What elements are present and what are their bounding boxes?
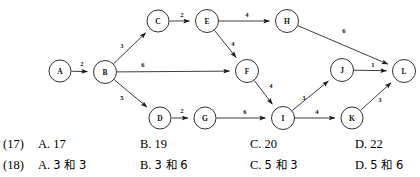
option-letter: B. <box>140 137 151 151</box>
option-c[interactable]: C. 20 <box>250 134 277 155</box>
node-label: H <box>284 17 290 26</box>
option-b[interactable]: B. 19 <box>140 134 167 155</box>
option-letter: C. <box>250 158 261 172</box>
node-label: L <box>401 67 406 76</box>
option-c[interactable]: C. 5 和 3 <box>250 155 298 176</box>
node-label: F <box>245 67 250 76</box>
option-a[interactable]: A. 3 和 3 <box>38 155 86 176</box>
edge-weight-d-g: 2 <box>180 107 184 114</box>
edge-weight-j-l: 1 <box>371 61 374 68</box>
option-text: 5 和 3 <box>265 158 298 172</box>
option-d[interactable]: D. 22 <box>355 134 383 155</box>
node-label: J <box>340 66 344 75</box>
node-d[interactable]: D <box>149 107 171 129</box>
option-letter: B. <box>140 158 151 172</box>
option-letter: D. <box>355 137 367 151</box>
node-c[interactable]: C <box>147 10 169 32</box>
node-label: E <box>204 17 209 26</box>
option-text: 17 <box>53 137 66 151</box>
graph-svg: ABCDEFGHIJKL 236524462643413 <box>0 0 420 136</box>
question-number: (18) <box>3 155 24 176</box>
edge-weight-e-f: 4 <box>231 40 235 47</box>
nodes-layer: ABCDEFGHIJKL <box>49 10 416 130</box>
edge-weight-i-k: 4 <box>315 108 319 115</box>
option-d[interactable]: D. 5 和 6 <box>355 155 403 176</box>
edge-weight-b-c: 3 <box>120 42 124 49</box>
option-text: 3 和 6 <box>155 158 188 172</box>
edge-weight-a-b: 2 <box>80 60 84 67</box>
node-j[interactable]: J <box>331 59 354 82</box>
edge-weight-k-l: 3 <box>378 96 382 103</box>
node-label: A <box>57 67 63 76</box>
question-number: (17) <box>3 134 24 155</box>
node-h[interactable]: H <box>276 10 299 33</box>
answer-row: (17) A. 17 B. 19 C. 20 D. 22 <box>0 134 420 155</box>
option-letter: A. <box>38 158 50 172</box>
edge-b-to-d <box>114 80 147 107</box>
option-b[interactable]: B. 3 和 6 <box>140 155 188 176</box>
node-i[interactable]: I <box>272 107 295 130</box>
answer-row: (18) A. 3 和 3 B. 3 和 6 C. 5 和 3 D. 5 和 6 <box>0 155 420 176</box>
edge-weight-f-i: 4 <box>269 82 273 89</box>
edge-b-to-c <box>114 33 146 64</box>
edge-j-to-l <box>354 70 387 71</box>
option-text: 20 <box>265 137 278 151</box>
node-label: I <box>282 114 285 123</box>
node-label: B <box>102 68 107 77</box>
node-label: G <box>202 114 208 123</box>
option-text: 3 和 3 <box>53 158 86 172</box>
edge-weight-b-d: 5 <box>120 94 124 101</box>
option-letter: C. <box>250 137 261 151</box>
edge-k-to-l <box>361 83 391 111</box>
graph-diagram: ABCDEFGHIJKL 236524462643413 <box>0 0 420 136</box>
node-f[interactable]: F <box>236 60 259 83</box>
node-label: D <box>157 114 163 123</box>
edge-i-to-j <box>292 81 328 110</box>
edge-weight-e-h: 4 <box>245 11 249 18</box>
node-l[interactable]: L <box>393 60 416 83</box>
option-letter: D. <box>355 158 367 172</box>
node-g[interactable]: G <box>194 107 216 129</box>
option-text: 5 和 6 <box>370 158 403 172</box>
node-label: C <box>155 17 160 26</box>
node-k[interactable]: K <box>341 107 363 129</box>
answer-options: (17) A. 17 B. 19 C. 20 D. 22 (18) A. 3 和… <box>0 134 420 177</box>
edge-weight-h-l: 6 <box>342 27 346 34</box>
edge-weight-c-e: 2 <box>180 11 184 18</box>
node-a[interactable]: A <box>49 60 71 82</box>
edge-weight-g-i: 6 <box>243 108 247 115</box>
edge-b-to-f <box>117 71 230 72</box>
node-label: K <box>349 114 355 123</box>
node-e[interactable]: E <box>196 10 219 33</box>
option-a[interactable]: A. 17 <box>38 134 66 155</box>
node-b[interactable]: B <box>94 61 117 84</box>
option-letter: A. <box>38 137 50 151</box>
edge-weight-b-f: 6 <box>141 61 145 68</box>
option-text: 19 <box>155 137 168 151</box>
option-text: 22 <box>370 137 383 151</box>
